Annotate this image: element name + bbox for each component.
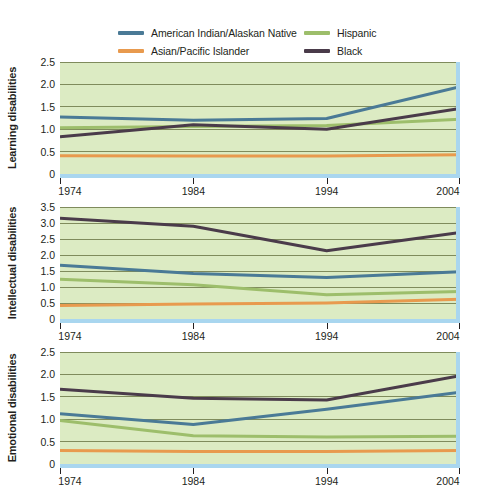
- y-tick-label: 2.0: [40, 249, 55, 261]
- series-layer: [60, 207, 460, 319]
- series-line-hispanic: [60, 279, 460, 294]
- x-tick-label: 1974: [58, 475, 81, 487]
- series-layer: [60, 352, 460, 464]
- series-line-american-indian-alaskan-native: [60, 392, 460, 424]
- y-axis-title-learning-disabilities: Learning disabilities: [2, 62, 22, 174]
- y-tick-label: 3.5: [40, 201, 55, 213]
- chart-legend: American Indian/Alaskan Native Hispanic …: [118, 24, 458, 60]
- series-line-american-indian-alaskan-native: [60, 265, 460, 277]
- y-tick-label: 0: [49, 313, 55, 325]
- axis-band-right: [456, 207, 460, 323]
- legend-swatch-hispanic: [304, 31, 330, 35]
- x-tick-mark: [459, 178, 460, 184]
- y-tick-label: 3.0: [40, 217, 55, 229]
- y-tick-label: 2.5: [40, 56, 55, 68]
- series-line-asian-pacific-islander: [60, 299, 460, 305]
- x-tick-mark: [60, 468, 61, 474]
- y-axis-title-emotional-disabilities: Emotional disabilities: [2, 352, 22, 464]
- x-tick-mark: [193, 323, 194, 329]
- x-axis-intellectual-disabilities: 1974198419942004: [60, 323, 460, 345]
- y-tick-label: 2.0: [40, 78, 55, 90]
- y-tick-label: 1.0: [40, 281, 55, 293]
- x-tick-mark: [327, 178, 328, 184]
- legend-swatch-black: [304, 49, 330, 53]
- x-tick-label: 1994: [315, 185, 338, 197]
- legend-label-hispanic: Hispanic: [337, 27, 376, 39]
- series-line-hispanic: [60, 421, 460, 438]
- axis-band-right: [456, 352, 460, 468]
- x-tick-mark: [327, 468, 328, 474]
- x-tick-label: 1984: [182, 185, 205, 197]
- y-tick-label: 0.5: [40, 436, 55, 448]
- series-layer: [60, 62, 460, 174]
- x-tick-label: 1984: [182, 475, 205, 487]
- legend-swatch-american-indian-alaskan-native: [118, 31, 144, 35]
- y-axis-ticks-emotional-disabilities: 00.51.01.52.02.5: [22, 352, 58, 464]
- x-tick-label: 1994: [315, 330, 338, 342]
- plot-area-intellectual-disabilities: [60, 207, 460, 319]
- x-tick-mark: [193, 468, 194, 474]
- y-tick-label: 0: [49, 458, 55, 470]
- x-tick-label: 1974: [58, 185, 81, 197]
- y-tick-label: 0.5: [40, 146, 55, 158]
- legend-item-hispanic: Hispanic: [304, 27, 458, 39]
- x-tick-label: 1974: [58, 330, 81, 342]
- y-tick-label: 0: [49, 168, 55, 180]
- chart-panel-intellectual-disabilities: Intellectual disabilities 00.51.01.52.02…: [0, 207, 490, 335]
- y-tick-label: 2.5: [40, 346, 55, 358]
- plot-area-learning-disabilities: [60, 62, 460, 174]
- y-tick-label: 1.5: [40, 265, 55, 277]
- series-line-asian-pacific-islander: [60, 451, 460, 452]
- x-tick-mark: [459, 323, 460, 329]
- y-tick-label: 2.0: [40, 368, 55, 380]
- x-tick-label: 1994: [315, 475, 338, 487]
- y-tick-label: 1.0: [40, 123, 55, 135]
- series-line-american-indian-alaskan-native: [60, 87, 460, 121]
- y-axis-ticks-intellectual-disabilities: 00.51.01.52.02.53.03.5: [22, 207, 58, 319]
- y-axis-ticks-learning-disabilities: 00.51.01.52.02.5: [22, 62, 58, 174]
- y-tick-label: 1.5: [40, 391, 55, 403]
- y-tick-label: 0.5: [40, 297, 55, 309]
- legend-swatch-asian-pacific-islander: [118, 49, 144, 53]
- y-axis-title-intellectual-disabilities: Intellectual disabilities: [2, 207, 22, 319]
- plot-area-emotional-disabilities: [60, 352, 460, 464]
- legend-label-black: Black: [337, 45, 362, 57]
- series-line-asian-pacific-islander: [60, 155, 460, 156]
- x-axis-emotional-disabilities: 1974198419942004: [60, 468, 460, 490]
- x-axis-learning-disabilities: 1974198419942004: [60, 178, 460, 200]
- x-tick-label: 2004: [436, 330, 459, 342]
- y-tick-label: 1.5: [40, 101, 55, 113]
- legend-label-american-indian-alaskan-native: American Indian/Alaskan Native: [151, 27, 297, 39]
- legend-item-american-indian-alaskan-native: American Indian/Alaskan Native: [118, 27, 304, 39]
- chart-panel-learning-disabilities: Learning disabilities 00.51.01.52.02.5 1…: [0, 62, 490, 190]
- series-line-black: [60, 218, 460, 251]
- x-tick-mark: [327, 323, 328, 329]
- axis-band-right: [456, 62, 460, 178]
- chart-panel-emotional-disabilities: Emotional disabilities 00.51.01.52.02.5 …: [0, 352, 490, 480]
- x-tick-label: 2004: [436, 185, 459, 197]
- y-tick-label: 2.5: [40, 233, 55, 245]
- x-tick-mark: [459, 468, 460, 474]
- y-tick-label: 1.0: [40, 413, 55, 425]
- x-tick-mark: [60, 323, 61, 329]
- x-tick-mark: [193, 178, 194, 184]
- x-tick-label: 1984: [182, 330, 205, 342]
- legend-item-black: Black: [304, 45, 458, 57]
- x-tick-label: 2004: [436, 475, 459, 487]
- series-line-black: [60, 376, 460, 400]
- legend-label-asian-pacific-islander: Asian/Pacific Islander: [151, 45, 249, 57]
- chart-figure: American Indian/Alaskan Native Hispanic …: [0, 0, 490, 495]
- x-tick-mark: [60, 178, 61, 184]
- legend-item-asian-pacific-islander: Asian/Pacific Islander: [118, 45, 304, 57]
